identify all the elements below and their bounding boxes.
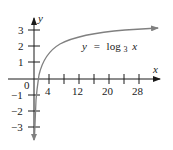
function-label-fn: log <box>107 40 122 52</box>
x-tick-label: 12 <box>72 85 83 97</box>
y-tick-label: 3 <box>18 24 24 36</box>
x-tick-label: 20 <box>102 85 114 97</box>
origin-label: 0 <box>24 79 30 91</box>
chart-root: y x 3 2 1 0 −1 −2 −3 4 12 20 28 y = log … <box>0 0 173 150</box>
y-tick-label: −3 <box>11 121 23 133</box>
function-label-eq: = <box>94 40 100 52</box>
y-tick-label: 2 <box>18 40 24 52</box>
function-label-arg: x <box>131 40 137 52</box>
y-axis-label: y <box>37 12 43 24</box>
y-tick-label: 1 <box>18 56 24 68</box>
function-label-lhs: y <box>81 40 87 52</box>
x-tick-label: 28 <box>132 85 144 97</box>
y-tick-label: −2 <box>11 105 23 117</box>
x-tick-label: 4 <box>45 85 51 97</box>
x-axis-label: x <box>152 63 158 75</box>
function-label: y = log 3 x <box>81 40 137 54</box>
function-label-base: 3 <box>123 45 127 54</box>
log-chart: y x 3 2 1 0 −1 −2 −3 4 12 20 28 y = log … <box>0 0 173 150</box>
y-tick-label: −1 <box>11 89 23 101</box>
